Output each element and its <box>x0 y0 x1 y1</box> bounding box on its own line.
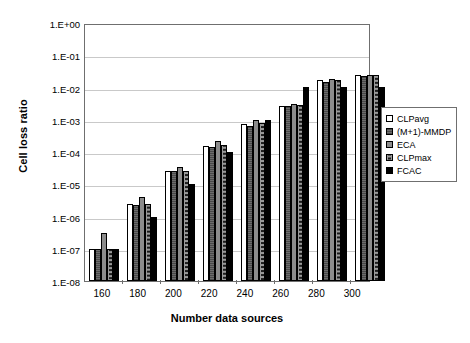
x-axis-tick-labels: 160180200220240260280300 <box>84 288 370 299</box>
plot-area <box>84 24 370 282</box>
bar-group <box>275 25 313 281</box>
bar <box>341 87 347 281</box>
legend-swatch-icon <box>386 115 393 122</box>
y-axis-tick-label: 1.E-03 <box>52 115 80 126</box>
x-axis-tick-label: 260 <box>263 288 299 299</box>
x-axis-tick-label: 220 <box>191 288 227 299</box>
bar-group <box>313 25 351 281</box>
y-axis-tick-label: 1.E-04 <box>52 148 80 159</box>
x-axis-tick-label: 200 <box>156 288 192 299</box>
legend-item[interactable]: FCAC <box>386 164 451 177</box>
x-axis-title: Number data sources <box>84 312 370 324</box>
bar-group <box>123 25 161 281</box>
x-axis-tick-label: 300 <box>334 288 370 299</box>
x-axis-tick-label: 160 <box>84 288 120 299</box>
bar-group <box>237 25 275 281</box>
legend-item[interactable]: ECA <box>386 138 451 151</box>
bar <box>303 87 309 281</box>
y-axis-tick-label: 1.E-02 <box>52 83 80 94</box>
legend-item[interactable]: (M+1)-MMDP <box>386 125 451 138</box>
bar <box>189 184 195 281</box>
x-axis-tick-label: 280 <box>299 288 335 299</box>
chart-figure: Cell loss ratio 1.E+001.E-011.E-021.E-03… <box>0 0 470 343</box>
legend-swatch-icon <box>386 154 393 161</box>
legend-item-label: FCAC <box>397 166 422 176</box>
bar <box>151 217 157 282</box>
bar <box>227 152 233 281</box>
bar-group <box>161 25 199 281</box>
legend-item-label: CLPavg <box>397 114 429 124</box>
x-axis-tick-label: 180 <box>120 288 156 299</box>
legend-item-label: (M+1)-MMDP <box>397 127 451 137</box>
legend-item[interactable]: CLPavg <box>386 112 451 125</box>
y-axis-tick-label: 1.E-01 <box>52 51 80 62</box>
y-axis-tick-label: 1.E-08 <box>52 277 80 288</box>
legend-swatch-icon <box>386 141 393 148</box>
legend-swatch-icon <box>386 167 393 174</box>
y-axis-tick-labels: 1.E+001.E-011.E-021.E-031.E-041.E-051.E-… <box>24 0 80 343</box>
bar-group <box>199 25 237 281</box>
legend-item-label: CLPmax <box>397 153 432 163</box>
y-axis-tick-label: 1.E+00 <box>50 19 80 30</box>
bar <box>265 120 271 281</box>
legend-item-label: ECA <box>397 140 416 150</box>
bar-group <box>85 25 123 281</box>
legend-item[interactable]: CLPmax <box>386 151 451 164</box>
legend-swatch-icon <box>386 128 393 135</box>
y-axis-tick-label: 1.E-05 <box>52 180 80 191</box>
bar <box>113 249 119 281</box>
bar-groups <box>85 25 369 281</box>
y-axis-tick-label: 1.E-07 <box>52 244 80 255</box>
y-axis-tick-label: 1.E-06 <box>52 212 80 223</box>
legend: CLPavg(M+1)-MMDPECACLPmaxFCAC <box>381 107 457 182</box>
x-axis-tick-label: 240 <box>227 288 263 299</box>
